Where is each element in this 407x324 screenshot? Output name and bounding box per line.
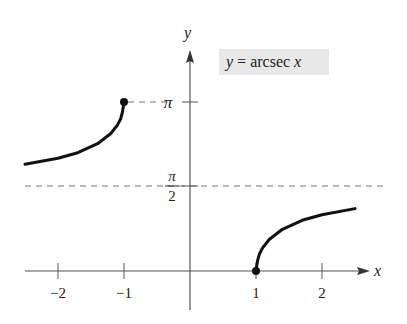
arcsec-curve-left (25, 102, 124, 164)
svg-text:y = arcsec x: y = arcsec x (224, 53, 301, 71)
arcsec-curve-right (256, 209, 355, 271)
x-axis-label: x (373, 262, 381, 279)
x-tick-label-neg1: −1 (116, 285, 132, 301)
function-legend: y = arcsec x (219, 49, 329, 75)
closed-endpoint-left (120, 98, 128, 106)
closed-endpoint-right (252, 267, 260, 275)
svg-text:2: 2 (168, 188, 176, 204)
arcsec-chart: y x −2 −1 1 2 π π 2 y = arcsec x (0, 0, 407, 324)
y-tick-label-pi-half: π 2 (165, 168, 179, 204)
y-axis-label: y (182, 24, 192, 42)
svg-text:π: π (168, 168, 176, 184)
y-tick-label-pi: π (164, 93, 173, 112)
x-tick-label-2: 2 (318, 285, 326, 301)
x-tick-label-neg2: −2 (50, 285, 66, 301)
x-tick-label-1: 1 (252, 285, 260, 301)
